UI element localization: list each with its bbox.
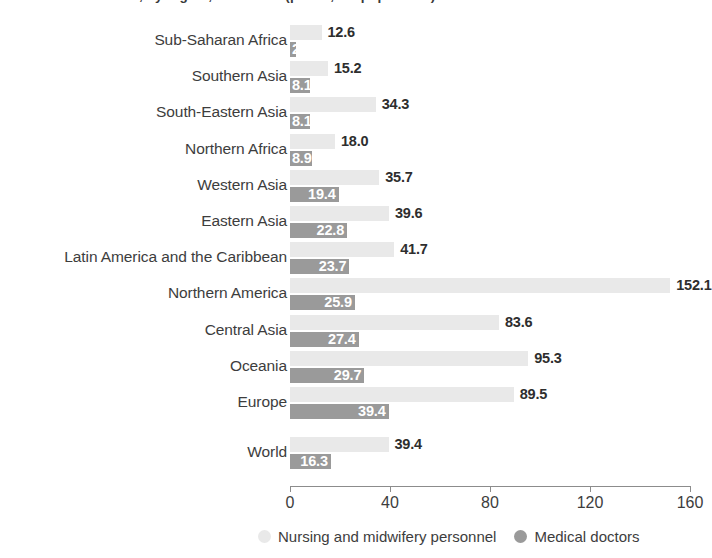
value-label-nursing: 15.2 [334, 60, 361, 76]
value-label-nursing: 34.3 [382, 96, 409, 112]
category-label: Southern Asia [192, 67, 287, 85]
value-label-nursing: 41.7 [400, 241, 427, 257]
chart-row: Southern Asia15.28.1 [0, 60, 705, 96]
legend-swatch-circle-icon [514, 530, 527, 543]
bar-nursing-and-midwifery-personnel[interactable] [290, 170, 379, 185]
value-label-medical-doctors: 25.9 [292, 294, 352, 310]
category-label: Northern Africa [185, 140, 287, 158]
value-label-medical-doctors: 8.9 [292, 150, 309, 166]
chart-row: South-Eastern Asia34.38.1 [0, 96, 705, 132]
category-label: Eastern Asia [201, 212, 287, 230]
chart-row: Oceania95.329.7 [0, 350, 705, 386]
axis-tick [390, 486, 391, 492]
category-label: South-Eastern Asia [156, 103, 287, 121]
axis-tick-label: 120 [577, 494, 604, 512]
value-label-medical-doctors: 39.4 [292, 403, 386, 419]
bar-nursing-and-midwifery-personnel[interactable] [290, 134, 335, 149]
category-label: World [247, 443, 287, 461]
category-label: Central Asia [205, 321, 287, 339]
chart-row: Latin America and the Caribbean41.723.7 [0, 241, 705, 277]
chart-row: Northern America152.125.9 [0, 277, 705, 313]
bar-nursing-and-midwifery-personnel[interactable] [290, 351, 528, 366]
value-label-nursing: 89.5 [520, 386, 547, 402]
value-label-medical-doctors: 27.4 [292, 331, 356, 347]
chart-row: Eastern Asia39.622.8 [0, 205, 705, 241]
axis-tick-label: 0 [286, 494, 295, 512]
value-label-nursing: 39.6 [395, 205, 422, 221]
bar-nursing-and-midwifery-personnel[interactable] [290, 278, 670, 293]
value-label-medical-doctors: 22.8 [292, 222, 344, 238]
axis-tick-label: 40 [381, 494, 399, 512]
bar-nursing-and-midwifery-personnel[interactable] [290, 206, 389, 221]
value-label-nursing: 35.7 [385, 169, 412, 185]
category-label: Western Asia [197, 176, 287, 194]
category-label: Oceania [230, 357, 287, 375]
legend-swatch-circle-icon [258, 530, 271, 543]
chart-row: Sub-Saharan Africa12.62.3 [0, 24, 705, 60]
chart-row: World39.416.3 [0, 436, 705, 472]
legend-item-nursing-and-midwifery-personnel[interactable]: Nursing and midwifery personnel [258, 528, 496, 545]
axis-tick-label: 160 [677, 494, 704, 512]
axis-tick-label: 80 [481, 494, 499, 512]
value-label-medical-doctors: 23.7 [292, 258, 346, 274]
value-label-nursing: 83.6 [505, 314, 532, 330]
bar-nursing-and-midwifery-personnel[interactable] [290, 97, 376, 112]
axis-tick [490, 486, 491, 492]
legend-label: Nursing and midwifery personnel [278, 528, 496, 545]
value-label-nursing: 18.0 [341, 133, 368, 149]
bar-nursing-and-midwifery-personnel[interactable] [290, 315, 499, 330]
chart-row: Western Asia35.719.4 [0, 169, 705, 205]
chart-row: Northern Africa18.08.9 [0, 133, 705, 169]
bar-nursing-and-midwifery-personnel[interactable] [290, 61, 328, 76]
legend-label: Medical doctors [534, 528, 639, 545]
category-label: Latin America and the Caribbean [64, 248, 287, 266]
chart-row: Central Asia83.627.4 [0, 314, 705, 350]
category-label: Northern America [168, 284, 287, 302]
bar-nursing-and-midwifery-personnel[interactable] [290, 387, 514, 402]
value-label-medical-doctors: 8.1 [292, 113, 307, 129]
axis-tick [690, 486, 691, 492]
chart-row: Europe89.539.4 [0, 386, 705, 422]
value-label-nursing: 95.3 [534, 350, 561, 366]
axis-tick [290, 486, 291, 492]
category-label: Europe [238, 393, 287, 411]
chart-legend: Nursing and midwifery personnelMedical d… [258, 528, 639, 545]
bar-nursing-and-midwifery-personnel[interactable] [290, 242, 394, 257]
bar-nursing-and-midwifery-personnel[interactable] [290, 25, 322, 40]
value-label-medical-doctors: 8.1 [292, 77, 307, 93]
bar-nursing-and-midwifery-personnel[interactable] [290, 437, 389, 452]
value-label-medical-doctors: 29.7 [292, 367, 361, 383]
legend-item-medical-doctors[interactable]: Medical doctors [514, 528, 639, 545]
value-label-nursing: 12.6 [328, 24, 355, 40]
value-label-medical-doctors: 19.4 [292, 186, 336, 202]
value-label-nursing: 152.1 [676, 277, 711, 293]
value-label-medical-doctors: 2.3 [292, 41, 302, 57]
category-label: Sub-Saharan Africa [154, 31, 287, 49]
axis-tick [590, 486, 591, 492]
value-label-nursing: 39.4 [395, 436, 422, 452]
value-label-medical-doctors: 16.3 [292, 453, 328, 469]
